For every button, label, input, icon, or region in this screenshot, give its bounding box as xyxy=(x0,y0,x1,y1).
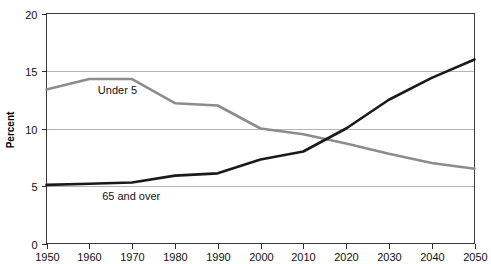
annotation-under-5: Under 5 xyxy=(98,84,137,96)
x-tick-label-2000: 2000 xyxy=(249,251,273,263)
x-tick-label-2050: 2050 xyxy=(463,251,487,263)
chart-background xyxy=(0,0,491,264)
y-tick-label-0: 0 xyxy=(31,239,37,251)
x-tick-label-2010: 2010 xyxy=(291,251,315,263)
x-tick-label-1970: 1970 xyxy=(120,251,144,263)
x-tick-label-2020: 2020 xyxy=(334,251,358,263)
x-tick-label-2030: 2030 xyxy=(377,251,401,263)
x-tick-label-2040: 2040 xyxy=(420,251,444,263)
line-chart: 05101520 1950196019701980199020002010202… xyxy=(0,0,491,264)
y-tick-label-10: 10 xyxy=(25,124,37,136)
y-axis-title: Percent xyxy=(5,111,16,148)
annotation-65-and-over: 65 and over xyxy=(102,190,160,202)
chart-container: 05101520 1950196019701980199020002010202… xyxy=(0,0,491,264)
y-tick-label-5: 5 xyxy=(31,181,37,193)
x-tick-label-1950: 1950 xyxy=(35,251,59,263)
x-tick-label-1960: 1960 xyxy=(77,251,101,263)
y-tick-label-15: 15 xyxy=(25,66,37,78)
y-tick-label-20: 20 xyxy=(25,9,37,21)
x-tick-label-1990: 1990 xyxy=(206,251,230,263)
x-tick-label-1980: 1980 xyxy=(163,251,187,263)
